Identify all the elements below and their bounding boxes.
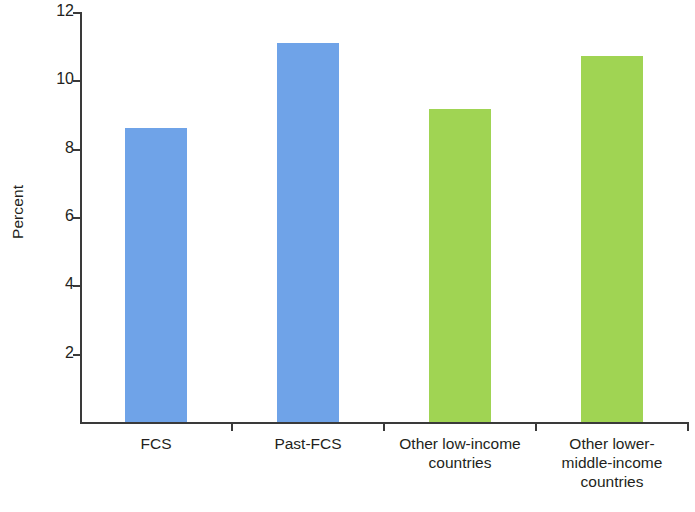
x-tick-mark <box>231 422 233 431</box>
y-tick-mark <box>73 12 81 14</box>
y-tick-mark <box>73 285 81 287</box>
x-tick-mark <box>383 422 385 431</box>
y-tick-mark <box>73 354 81 356</box>
y-axis-title-text: Percent <box>9 185 27 239</box>
bar <box>125 128 187 422</box>
x-axis-category-label: Other low-income countries <box>384 434 536 472</box>
x-axis-category-label: FCS <box>80 434 232 453</box>
y-tick-label: 12 <box>56 2 74 20</box>
y-tick-label: 2 <box>65 344 74 362</box>
y-tick-mark <box>73 80 81 82</box>
bar-chart: Percent 24681012 FCSPast-FCSOther low-in… <box>0 0 695 512</box>
y-tick-mark <box>73 217 81 219</box>
y-tick-mark <box>73 149 81 151</box>
plot-area: 24681012 <box>80 12 688 424</box>
x-tick-mark <box>687 422 689 431</box>
y-tick-label: 8 <box>65 139 74 157</box>
x-axis-category-label: Past-FCS <box>232 434 384 453</box>
bar <box>277 43 339 422</box>
bar <box>581 56 643 422</box>
bar <box>429 109 491 422</box>
y-tick-label: 10 <box>56 70 74 88</box>
x-axis-category-label: Other lower- middle-income countries <box>536 434 688 491</box>
y-tick-label: 4 <box>65 275 74 293</box>
y-axis-title: Percent <box>0 0 36 424</box>
y-tick-label: 6 <box>65 207 74 225</box>
x-tick-mark <box>535 422 537 431</box>
